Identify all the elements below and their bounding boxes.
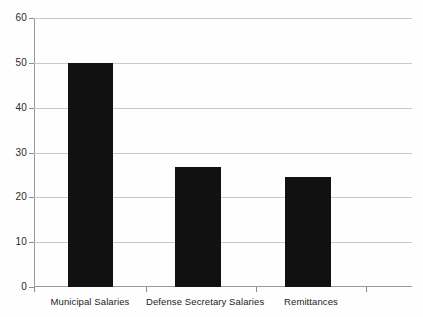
x-tick-3: [366, 287, 367, 292]
x-axis-label-remittances: Remittances: [256, 296, 366, 308]
x-axis-label-defense-secretary-salaries: Defense Secretary Salaries: [146, 296, 256, 308]
y-axis-tick-label-0: 0: [3, 282, 27, 292]
x-axis-label-municipal-salaries: Municipal Salaries: [34, 296, 146, 308]
bar-chart-figure: 60 50 40 30 20 10 0: [0, 0, 423, 317]
y-axis-tick-label-50: 50: [3, 58, 27, 68]
x-tick-2: [256, 287, 257, 292]
x-axis-category-labels: Municipal Salaries Defense Secretary Sal…: [0, 296, 423, 314]
x-tick-0: [34, 287, 35, 292]
gridline-60: [34, 18, 412, 19]
plot-area: [34, 18, 412, 287]
bar-defense-secretary-salaries: [175, 167, 221, 287]
bar-municipal-salaries: [68, 63, 113, 287]
y-axis-tick-label-20: 20: [3, 192, 27, 202]
y-axis-tick-labels: 60 50 40 30 20 10 0: [0, 0, 27, 317]
bar-remittances: [285, 177, 331, 287]
y-axis-tick-label-60: 60: [3, 13, 27, 23]
y-axis-tick-label-40: 40: [3, 103, 27, 113]
y-axis-tick-label-30: 30: [3, 148, 27, 158]
x-tick-1: [146, 287, 147, 292]
y-axis-tick-label-10: 10: [3, 237, 27, 247]
